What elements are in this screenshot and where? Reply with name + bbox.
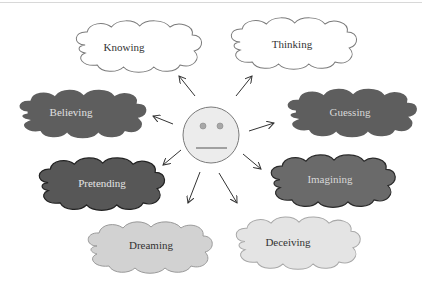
arrow-to-dreaming [188,172,200,203]
arrow-to-imagining [243,154,261,169]
cloud-label-deceiving: Deceiving [265,236,311,248]
arrow-to-deceiving [219,173,237,203]
arrow-to-pretending [163,150,181,165]
cloud-label-pretending: Pretending [78,177,126,189]
arrow-to-thinking [236,76,252,96]
neutral-face-icon [183,107,239,163]
right-eye [217,123,223,129]
mind-map-diagram: Knowing Thinking Believing Guessing Pret… [0,0,422,285]
cloud-label-imagining: Imagining [307,173,353,185]
cloud-label-dreaming: Dreaming [129,239,173,251]
cloud-label-believing: Believing [50,106,93,118]
cloud-label-knowing: Knowing [104,41,145,53]
arrow-to-knowing [179,76,195,96]
arrow-to-guessing [249,123,274,131]
cloud-label-thinking: Thinking [272,38,313,50]
cloud-label-guessing: Guessing [330,106,371,118]
arrow-to-believing [153,116,173,124]
left-eye [200,123,206,129]
